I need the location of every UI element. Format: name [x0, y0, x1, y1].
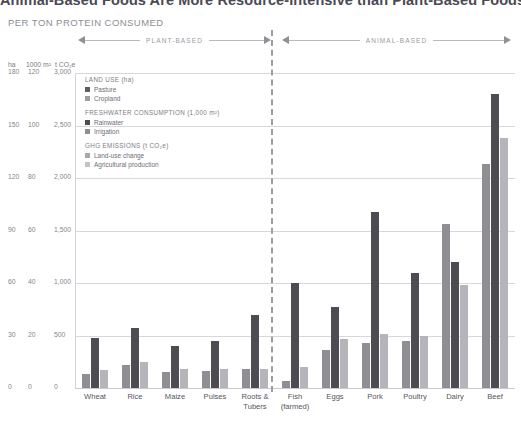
page-title: Animal-Based Foods Are More Resource-Int…: [0, 0, 521, 8]
legend-swatch-icon: [85, 153, 90, 158]
section-label-animal: ANIMAL-BASED: [360, 37, 434, 44]
tick-label-co2: 500: [54, 331, 65, 338]
bar-freshwater-consumption: [91, 338, 100, 388]
legend-item[interactable]: Agricultural production: [85, 161, 245, 168]
tick-label-ha: 180: [8, 68, 19, 75]
x-axis-label: Beef: [475, 392, 515, 402]
legend-block: GHG EMISSIONS (t CO₂e)Land-use changeAgr…: [85, 142, 245, 168]
legend-item[interactable]: Irrigation: [85, 128, 245, 135]
axis-header-co2: t CO₂e: [55, 61, 75, 68]
bar-freshwater-consumption: [131, 328, 140, 388]
tick-label-m2: 20: [28, 331, 36, 338]
bar-ghg-emissions: [460, 285, 469, 388]
x-axis-label: Rice: [115, 392, 155, 402]
bar-freshwater-consumption: [211, 341, 220, 388]
tick-label-ha: 0: [8, 383, 12, 390]
chart-legend: LAND USE (ha)PastureCroplandFRESHWATER C…: [85, 76, 245, 175]
x-axis-label: Dairy: [435, 392, 475, 402]
arrow-left-icon: [282, 36, 289, 44]
tick-label-co2: 3,000: [54, 68, 71, 75]
legend-block: LAND USE (ha)PastureCropland: [85, 76, 245, 102]
bar-group: [242, 73, 269, 388]
axis-header-ha: ha: [8, 61, 16, 68]
bar-land-use: [242, 369, 251, 388]
bar-land-use: [282, 381, 291, 388]
plant-animal-divider: [271, 30, 273, 392]
arrow-right-icon: [264, 36, 271, 44]
bar-freshwater-consumption: [171, 346, 180, 388]
legend-swatch-icon: [85, 129, 90, 134]
tick-label-co2: 2,000: [54, 173, 71, 180]
tick-label-m2: 0: [28, 383, 32, 390]
tick-label-m2: 100: [28, 121, 39, 128]
bar-ghg-emissions: [260, 369, 269, 388]
x-axis-label: Pork: [355, 392, 395, 402]
legend-item[interactable]: Pasture: [85, 86, 245, 93]
bar-ghg-emissions: [380, 334, 389, 388]
bar-group: [362, 73, 389, 388]
tick-label-ha: 150: [8, 121, 19, 128]
arrow-right-icon: [504, 36, 511, 44]
legend-swatch-icon: [85, 87, 90, 92]
tick-label-m2: 60: [28, 226, 36, 233]
divider: [85, 40, 140, 41]
divider: [209, 40, 264, 41]
tick-label-ha: 120: [8, 173, 19, 180]
x-axis-label: Maize: [155, 392, 195, 402]
bar-freshwater-consumption: [291, 283, 300, 388]
bar-ghg-emissions: [340, 339, 349, 388]
bar-group: [322, 73, 349, 388]
legend-item[interactable]: Rainwater: [85, 119, 245, 126]
tick-label-m2: 120: [28, 68, 39, 75]
tick-label-ha: 90: [8, 226, 16, 233]
bar-freshwater-consumption: [491, 94, 500, 388]
bar-group: [282, 73, 309, 388]
x-axis-label: Poultry: [395, 392, 435, 402]
legend-title: LAND USE (ha): [85, 76, 245, 83]
legend-item-label: Rainwater: [94, 119, 123, 126]
tick-label-co2: 1,000: [54, 278, 71, 285]
legend-item-label: Land-use change: [94, 152, 144, 159]
legend-block: FRESHWATER CONSUMPTION (1,000 m²)Rainwat…: [85, 109, 245, 135]
x-axis-label: Wheat: [75, 392, 115, 402]
page-subtitle: PER TON PROTEIN CONSUMED: [8, 17, 164, 28]
axis-header-m2: 1000 m²: [26, 61, 51, 68]
legend-item-label: Irrigation: [94, 128, 119, 135]
section-plant-based: PLANT-BASED: [78, 33, 271, 47]
bar-land-use: [482, 164, 491, 388]
legend-item-label: Cropland: [94, 95, 120, 102]
tick-label-co2: 1,500: [54, 226, 71, 233]
arrow-left-icon: [78, 36, 85, 44]
section-label-plant: PLANT-BASED: [140, 37, 209, 44]
bar-ghg-emissions: [300, 367, 309, 388]
section-animal-based: ANIMAL-BASED: [282, 33, 511, 47]
bar-group: [442, 73, 469, 388]
bar-group: [402, 73, 429, 388]
bar-freshwater-consumption: [411, 273, 420, 389]
tick-label-m2: 80: [28, 173, 36, 180]
bar-ghg-emissions: [420, 336, 429, 389]
bar-land-use: [122, 365, 131, 388]
tick-label-ha: 60: [8, 278, 16, 285]
bar-land-use: [162, 372, 171, 388]
legend-item[interactable]: Land-use change: [85, 152, 245, 159]
bar-freshwater-consumption: [331, 307, 340, 388]
legend-title: FRESHWATER CONSUMPTION (1,000 m²): [85, 109, 245, 116]
legend-swatch-icon: [85, 96, 90, 101]
legend-title: GHG EMISSIONS (t CO₂e): [85, 142, 245, 149]
bar-land-use: [442, 224, 451, 389]
bar-ghg-emissions: [500, 138, 509, 388]
bar-land-use: [402, 341, 411, 388]
bar-ghg-emissions: [180, 369, 189, 388]
bar-group: [482, 73, 509, 388]
bar-freshwater-consumption: [451, 262, 460, 388]
legend-item[interactable]: Cropland: [85, 95, 245, 102]
tick-label-co2: 0: [54, 383, 58, 390]
x-axis-baseline: [75, 388, 515, 389]
tick-label-m2: 40: [28, 278, 36, 285]
legend-item-label: Agricultural production: [94, 161, 159, 168]
legend-swatch-icon: [85, 120, 90, 125]
bar-land-use: [362, 343, 371, 389]
bar-ghg-emissions: [100, 370, 109, 388]
bar-ghg-emissions: [140, 362, 149, 388]
